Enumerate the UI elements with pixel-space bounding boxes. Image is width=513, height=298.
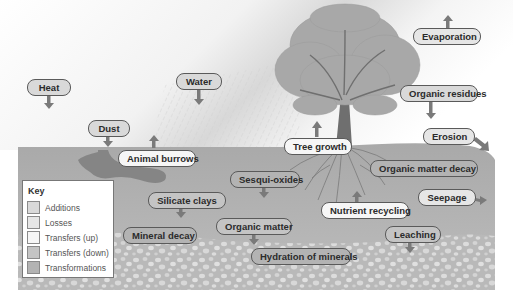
legend-swatch-transfers-down [27, 246, 40, 259]
legend-swatch-losses [27, 216, 40, 229]
label-silicate-clays: Silicate clays [148, 192, 226, 209]
label-mineral-decay: Mineral decay [123, 227, 197, 244]
legend-item-transfers-down: Transfers (down) [27, 246, 109, 259]
label-erosion: Erosion [423, 128, 475, 145]
label-leaching: Leaching [385, 226, 441, 243]
legend: Key Additions Losses Transfers (up) Tran… [22, 180, 114, 278]
label-organic-residues: Organic residues [400, 85, 478, 102]
legend-swatch-additions [27, 201, 40, 214]
legend-item-transformations: Transformations [27, 261, 106, 274]
label-tree-growth: Tree growth [284, 138, 352, 155]
legend-item-transfers-up: Transfers (up) [27, 231, 98, 244]
label-hydration-of-minerals: Hydration of minerals [251, 248, 351, 265]
label-heat: Heat [27, 79, 71, 96]
legend-swatch-transfers-up [27, 231, 40, 244]
label-nutrient-recycling: Nutrient recycling [321, 202, 409, 219]
label-dust: Dust [88, 120, 130, 137]
label-animal-burrows: Animal burrows [118, 150, 196, 167]
label-seepage: Seepage [418, 189, 476, 206]
label-water: Water [176, 73, 222, 90]
label-organic-matter: Organic matter [216, 218, 292, 235]
legend-item-additions: Additions [27, 201, 80, 214]
legend-title: Key [28, 186, 45, 196]
label-evaporation: Evaporation [413, 28, 481, 45]
legend-item-losses: Losses [27, 216, 72, 229]
label-sesqui-oxides: Sesqui-oxides [230, 171, 300, 188]
legend-swatch-transformations [27, 261, 40, 274]
label-organic-matter-decay: Organic matter decay [370, 160, 478, 177]
